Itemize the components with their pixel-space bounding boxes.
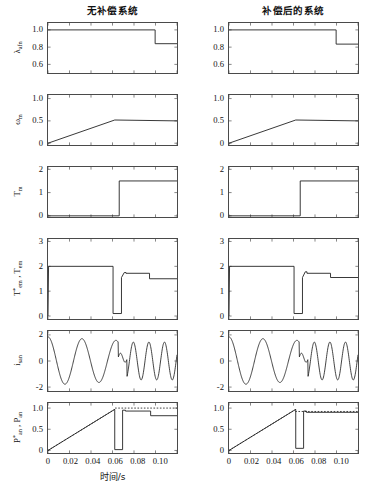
y-tick-label-left-Tem-0: 3 <box>17 237 43 246</box>
figure-root: 无补偿系统 补偿后的系统 1.00.80.6λafn1.00.80.6λafn1… <box>0 0 374 492</box>
plot-panel-right-Tm <box>228 166 359 218</box>
y-axis-label-left-Pan: P*an , Pan <box>13 397 22 457</box>
y-axis-label-left-Tm: Tm <box>13 161 22 221</box>
plot-panel-right-lambda <box>228 22 359 74</box>
column-title-right: 补偿后的系统 <box>228 3 359 17</box>
plot-panel-right-isan <box>228 330 359 392</box>
plot-panel-left-Tm <box>47 166 178 218</box>
plot-panel-left-lambda <box>47 22 178 74</box>
plot-panel-left-omega <box>47 94 178 146</box>
plot-panel-right-omega <box>228 94 359 146</box>
plot-panel-left-Pan <box>47 402 178 454</box>
y-tick-label-right-Tem-3: 0 <box>198 312 224 321</box>
plot-panel-left-isan <box>47 330 178 392</box>
y-tick-label-right-Tem-0: 3 <box>198 237 224 246</box>
x-axis-label-left: 时间/s <box>47 470 178 483</box>
y-axis-label-left-omega: ωm <box>13 89 22 149</box>
plot-panel-left-Tem <box>47 238 178 320</box>
y-axis-label-left-Tem: T*em , Tem <box>13 248 22 308</box>
y-axis-label-left-isan: isan <box>13 330 22 390</box>
y-tick-label-left-Tem-3: 0 <box>17 312 43 321</box>
plot-panel-right-Pan <box>228 402 359 454</box>
plot-panel-right-Tem <box>228 238 359 320</box>
x-tick-label-left-5: 0.10 <box>147 457 173 466</box>
y-axis-label-left-lambda: λafn <box>13 17 22 77</box>
column-title-left: 无补偿系统 <box>47 3 178 17</box>
x-tick-label-right-5: 0.10 <box>328 457 354 466</box>
